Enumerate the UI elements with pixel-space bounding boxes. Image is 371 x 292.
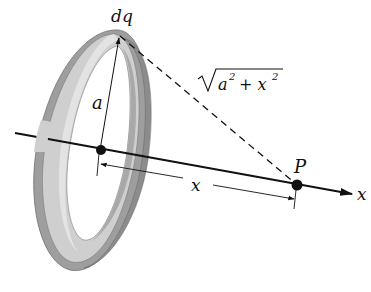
distance-expr-a: a: [218, 75, 228, 94]
distance-expression: a 2 + x 2: [198, 69, 283, 94]
radius-label: a: [92, 92, 103, 113]
distance-expr-plus-x: + x: [239, 75, 267, 94]
axial-distance-label: x: [191, 175, 201, 195]
ring: [34, 30, 152, 271]
point-P: [292, 180, 303, 191]
dimension-tick-right: [294, 190, 296, 209]
distance-expr-a-exp: 2: [228, 71, 235, 82]
ring-field-diagram: dq a a 2 + x 2 P x x: [0, 0, 371, 292]
x-dimension-right-arrow: [213, 185, 294, 199]
center-point: [96, 145, 106, 155]
dq-label: dq: [111, 6, 133, 26]
point-P-label: P: [293, 156, 307, 177]
distance-expr-x-exp: 2: [271, 71, 278, 82]
axis-label: x: [357, 184, 367, 204]
